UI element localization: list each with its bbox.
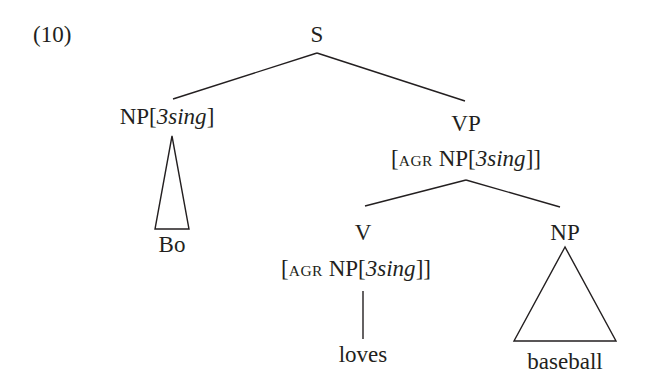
node-vp: VP <box>451 111 480 136</box>
triangle-object <box>514 247 616 341</box>
agr-smallcaps: agr <box>289 262 323 279</box>
agr-smallcaps: agr <box>399 152 433 169</box>
node-s: S <box>311 22 324 47</box>
vp-agr-feature: [agr NP[3sing]] <box>391 146 541 171</box>
syntax-tree-diagram: (10) S NP[3sing] Bo VP [agr NP[3sing]] V… <box>0 0 651 389</box>
node-object-np: NP <box>550 220 579 245</box>
edge-s-vp <box>317 53 465 101</box>
leaf-baseball: baseball <box>527 349 602 374</box>
v-agr-feature: [agr NP[3sing]] <box>281 256 431 281</box>
example-number: (10) <box>33 22 71 47</box>
leaf-loves: loves <box>339 342 388 367</box>
edge-vp-v <box>365 180 466 206</box>
leaf-bo: Bo <box>159 232 186 257</box>
node-v: V <box>355 220 372 245</box>
edge-vp-np <box>466 180 560 207</box>
feature-3sing: 3sing <box>156 104 207 129</box>
edge-s-np <box>173 53 317 99</box>
triangle-subject <box>155 136 189 229</box>
node-subject-np: NP[3sing] <box>120 104 215 129</box>
